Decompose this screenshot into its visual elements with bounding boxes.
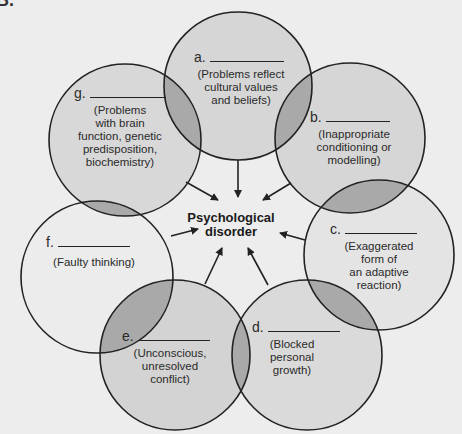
center-label: Psychological disorder xyxy=(176,211,286,239)
answer-blank-b[interactable] xyxy=(326,112,390,122)
circle-c-letter: c. xyxy=(330,221,341,237)
answer-blank-f[interactable] xyxy=(58,237,130,247)
circle-b-description: (Inappropriate conditioning or modelling… xyxy=(306,128,402,167)
circle-g-text: g. (Problems with brain function, geneti… xyxy=(72,86,182,169)
circle-d-description: (Blocked personal growth) xyxy=(252,338,342,377)
circle-f-letter: f. xyxy=(46,234,54,250)
circle-f-text: f. (Faulty thinking) xyxy=(44,235,144,269)
figure-marker: B. xyxy=(0,0,14,11)
answer-blank-e[interactable] xyxy=(138,331,210,341)
circle-c-text: c. (Exaggerated form of an adaptive reac… xyxy=(330,222,428,292)
circle-a-description: (Problems reflect cultural values and be… xyxy=(186,68,296,107)
answer-blank-a[interactable] xyxy=(210,52,284,62)
circle-d-letter: d. xyxy=(252,319,264,335)
circle-d-text: d. (Blocked personal growth) xyxy=(252,320,342,377)
circle-e-description: (Unconscious, unresolved conflict) xyxy=(120,347,220,386)
circle-e-text: e. (Unconscious, unresolved conflict) xyxy=(120,329,220,386)
circle-a-letter: a. xyxy=(194,49,206,65)
circle-a-text: a. (Problems reflect cultural values and… xyxy=(186,50,296,107)
label-layer: B. a. (Problems reflect cultural values … xyxy=(0,0,462,434)
answer-blank-g[interactable] xyxy=(90,88,166,98)
answer-blank-d[interactable] xyxy=(268,322,340,332)
circle-g-description: (Problems with brain function, genetic p… xyxy=(72,104,182,169)
circle-c-description: (Exaggerated form of an adaptive reactio… xyxy=(330,240,428,292)
answer-blank-c[interactable] xyxy=(345,224,417,234)
circle-f-description: (Faulty thinking) xyxy=(44,256,144,269)
circle-b-text: b. (Inappropriate conditioning or modell… xyxy=(306,110,402,167)
circle-g-letter: g. xyxy=(74,85,86,101)
circle-b-letter: b. xyxy=(310,109,322,125)
circle-e-letter: e. xyxy=(122,328,134,344)
